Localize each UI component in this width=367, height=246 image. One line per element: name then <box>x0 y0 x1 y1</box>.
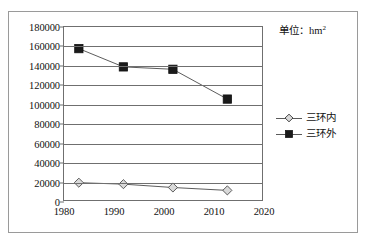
gridline <box>64 85 262 86</box>
chart-legend: 三环内 三环外 <box>276 110 336 142</box>
y-axis-tick-label: 60000 <box>34 138 60 149</box>
y-axis-tick-label: 120000 <box>29 80 60 91</box>
data-point-marker <box>168 183 177 192</box>
gridline <box>64 66 262 67</box>
y-axis-tick-label: 20000 <box>34 177 60 188</box>
diamond-marker-icon <box>276 112 302 124</box>
y-axis-tick-label: 40000 <box>34 158 60 169</box>
unit-annotation-text: 单位：hm <box>279 25 322 36</box>
y-axis-tick-mark <box>60 46 64 47</box>
series-line-inner <box>79 183 228 191</box>
x-axis-tick-label: 1990 <box>104 206 125 217</box>
y-axis-tick-mark <box>60 124 64 125</box>
data-point-marker <box>223 186 232 195</box>
y-axis-tick-mark <box>60 27 64 28</box>
series-layer <box>64 27 262 200</box>
y-axis-tick-label: 140000 <box>29 60 60 71</box>
series-line-outer <box>79 49 228 99</box>
gridline <box>64 46 262 47</box>
y-axis-tick-mark <box>60 182 64 183</box>
y-axis-tick-label: 80000 <box>34 119 60 130</box>
chart-figure: 单位：hm2 180000160000140000120000100000800… <box>0 0 367 246</box>
x-axis-tick-label: 2000 <box>154 206 175 217</box>
unit-annotation: 单位：hm2 <box>279 22 326 37</box>
gridline <box>64 183 262 184</box>
y-axis-tick-label: 180000 <box>29 22 60 33</box>
y-axis-tick-mark <box>60 104 64 105</box>
y-axis-tick-mark <box>60 202 64 203</box>
data-point-marker <box>119 63 127 71</box>
plot-area: 1800001600001400001200001000008000060000… <box>63 26 263 201</box>
gridline <box>64 105 262 106</box>
x-axis-tick-label: 1980 <box>54 206 75 217</box>
y-axis-tick-mark <box>60 85 64 86</box>
y-axis-tick-mark <box>60 65 64 66</box>
data-point-marker <box>223 95 231 103</box>
y-axis-tick-mark <box>60 143 64 144</box>
data-point-marker <box>119 180 128 189</box>
legend-item-outer: 三环外 <box>276 126 336 142</box>
square-marker-icon <box>276 128 302 140</box>
gridline <box>64 124 262 125</box>
y-axis-tick-label: 160000 <box>29 41 60 52</box>
y-axis-tick-mark <box>60 163 64 164</box>
gridline <box>64 144 262 145</box>
x-axis-tick-label: 2010 <box>204 206 225 217</box>
legend-label-outer: 三环外 <box>306 129 336 140</box>
unit-annotation-superscript: 2 <box>322 24 326 32</box>
y-axis-tick-label: 100000 <box>29 99 60 110</box>
legend-item-inner: 三环内 <box>276 110 336 126</box>
x-axis-tick-label: 2020 <box>254 206 275 217</box>
legend-label-inner: 三环内 <box>306 113 336 124</box>
gridline <box>64 163 262 164</box>
